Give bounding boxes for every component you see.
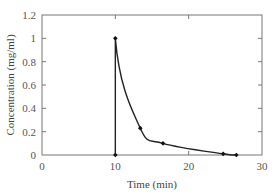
y-tick-label: 0.2 [22,126,36,138]
y-tick-label: 0.8 [22,56,36,68]
y-tick-label: 1 [31,32,37,44]
y-tick-label: 0.6 [22,79,36,91]
x-tick-label: 20 [183,160,195,172]
y-tick-label: 0 [31,149,37,161]
x-tick-label: 10 [110,160,122,172]
concentration-curve [115,38,236,155]
x-tick-label: 0 [39,160,45,172]
data-point-marker [234,153,239,158]
data-point-marker [113,153,118,158]
data-point-marker [161,141,166,146]
x-tick-labels: 0102030 [39,160,268,172]
concentration-time-chart: 00.20.40.60.811.2 0102030 Time (min) Con… [0,0,275,196]
data-series [113,36,239,157]
plot-frame [42,15,262,155]
y-tick-labels: 00.20.40.60.811.2 [22,9,36,161]
plot-border [42,15,262,155]
x-tick-label: 30 [257,160,269,172]
y-tick-label: 1.2 [22,9,36,21]
data-point-marker [138,126,143,131]
y-tick-label: 0.4 [22,102,36,114]
y-axis-label: Concentration (mg/ml) [4,34,17,135]
axis-ticks [42,15,262,155]
data-point-marker [113,36,118,41]
x-axis-label: Time (min) [127,178,177,191]
